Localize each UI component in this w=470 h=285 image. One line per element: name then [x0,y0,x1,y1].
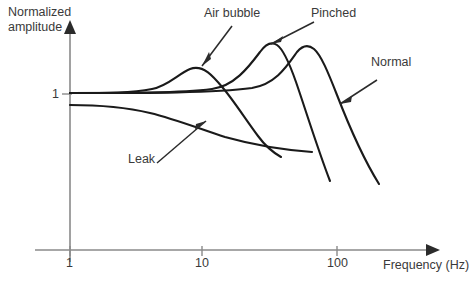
y-axis-title-line1: Normalized [8,5,71,19]
y-tick-label-1: 1 [52,87,59,102]
y-axis-title: Normalizedamplitude [8,5,71,35]
curve-normal [70,46,379,184]
curve-label-air-bubble: Air bubble [204,6,260,21]
curve-leak [70,105,312,152]
leader-pinched [271,22,314,44]
curve-label-normal: Normal [371,55,411,70]
figure-canvas: Normalizedamplitude Frequency (Hz) 1 1 1… [0,0,470,285]
curve-pinched [70,43,330,181]
curve-label-leak: Leak [128,152,155,167]
x-axis-title: Frequency (Hz) [383,258,469,273]
x-axis [35,244,440,256]
x-tick-label-100: 100 [327,256,348,271]
leader-normal [340,80,377,104]
curve-label-pinched: Pinched [311,6,356,21]
x-tick-label-10: 10 [195,256,209,271]
leader-leak [157,121,206,163]
axis-ticks [62,94,337,256]
plot-area [0,0,470,285]
y-axis [64,20,76,262]
leader-air-bubble [202,26,232,66]
y-axis-title-line2: amplitude [8,20,62,34]
x-tick-label-1: 1 [66,256,73,271]
